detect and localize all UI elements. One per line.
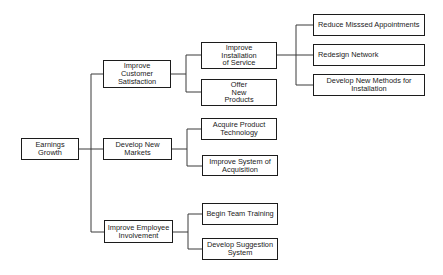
- node-reduce-missed-appointments: Reduce Misssed Appointments: [313, 14, 425, 36]
- node-develop-new-markets: Develop New Markets: [103, 138, 172, 160]
- node-improve-customer-satisfaction: Improve Customer Satisfaction: [103, 60, 171, 88]
- tree-diagram: Earnings Growth Improve Customer Satisfa…: [0, 0, 443, 275]
- node-improve-employee-involvement: Improve Employee Involvement: [104, 220, 173, 243]
- node-develop-new-methods-for-installation: Develop New Methods for Installation: [313, 74, 425, 96]
- node-acquire-product-technology: Acquire Product Technology: [201, 118, 277, 140]
- node-improve-installation-of-service: Improve Installation of Service: [201, 42, 277, 69]
- node-offer-new-products: Offer New Products: [201, 79, 277, 106]
- node-improve-system-of-acquisition: Improve System of Acquisition: [202, 155, 278, 176]
- node-begin-team-training: Begin Team Training: [202, 203, 278, 225]
- node-earnings-growth: Earnings Growth: [21, 138, 79, 160]
- node-develop-suggestion-system: Develop Suggestion System: [202, 238, 278, 260]
- node-redesign-network: Redesign Network: [313, 44, 425, 66]
